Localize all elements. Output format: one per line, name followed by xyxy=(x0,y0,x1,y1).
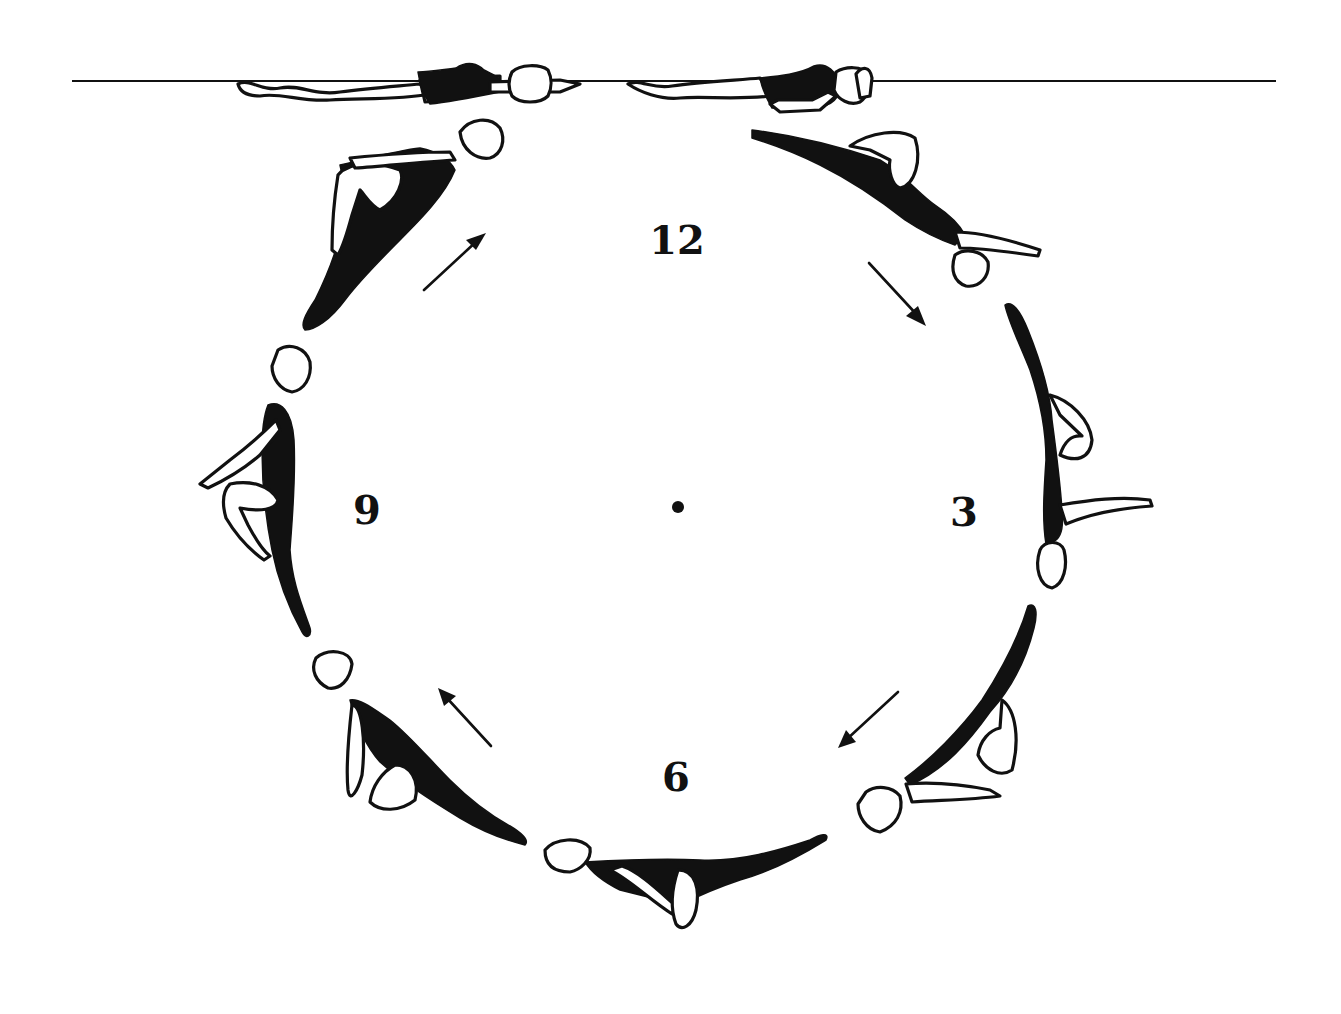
swimmer-4-30 xyxy=(858,605,1036,832)
swimmer-6-oclock xyxy=(545,835,827,928)
center-dot xyxy=(672,501,684,513)
clock-label-6: 6 xyxy=(662,757,690,797)
swimmer-3-oclock xyxy=(1005,304,1152,588)
swimmer-7-30 xyxy=(314,652,527,845)
clock-label-12: 12 xyxy=(649,220,705,260)
swim-clock-diagram: 12 3 6 9 xyxy=(0,0,1341,1014)
arrow-lower-left xyxy=(438,688,491,746)
diagram-canvas xyxy=(0,0,1341,1014)
clock-label-3: 3 xyxy=(950,492,978,532)
arrow-upper-right xyxy=(869,263,926,326)
swimmer-1-oclock xyxy=(752,130,1040,286)
swimmer-9-oclock xyxy=(200,346,310,636)
swimmer-surface-right xyxy=(628,65,872,112)
clock-label-9: 9 xyxy=(353,490,381,530)
swimmer-10-30 xyxy=(303,120,503,330)
arrow-upper-left xyxy=(424,233,486,290)
swimmer-surface-left xyxy=(238,64,580,104)
arrow-lower-right xyxy=(838,692,898,748)
